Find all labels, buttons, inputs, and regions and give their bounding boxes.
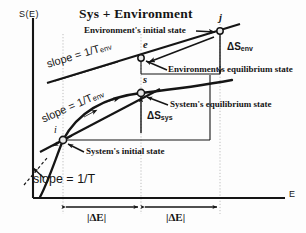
- delta-s-env-sub: env: [241, 45, 253, 52]
- point-label-s: s: [143, 74, 147, 85]
- figure-title: Sys + Environment: [79, 6, 193, 22]
- slope-label-curve-text: slope = 1/T: [33, 172, 95, 186]
- slope-label-curve-at-i: slope = 1/T: [33, 172, 95, 186]
- caption-sys-equilibrium-state: System's equilibrium state: [170, 99, 272, 109]
- delta-s-sys-symbol: ΔS: [147, 110, 161, 121]
- point-label-e: e: [143, 39, 148, 50]
- caption-env-equilibrium-state: Environment's equilibrium state: [168, 64, 293, 74]
- caption-sys-initial-state: System's initial state: [86, 146, 165, 156]
- point-label-i: i: [54, 124, 57, 135]
- figure-canvas: Sys + Environment S(E) E Environment's i…: [0, 0, 306, 233]
- delta-s-env-symbol: ΔS: [227, 41, 241, 52]
- delta-s-sys-sub: sys: [161, 114, 173, 121]
- delta-s-sys-label: ΔSsys: [147, 110, 173, 121]
- energy-interval-label-2: |ΔE|: [166, 211, 185, 223]
- point-label-j: j: [219, 12, 222, 23]
- caption-env-initial-state: Environment's initial state: [84, 25, 186, 35]
- energy-interval-label-1: |ΔE|: [87, 211, 106, 223]
- y-axis-label: S(E): [19, 9, 39, 19]
- x-axis-label: E: [289, 189, 296, 199]
- delta-s-env-label: ΔSenv: [227, 41, 253, 52]
